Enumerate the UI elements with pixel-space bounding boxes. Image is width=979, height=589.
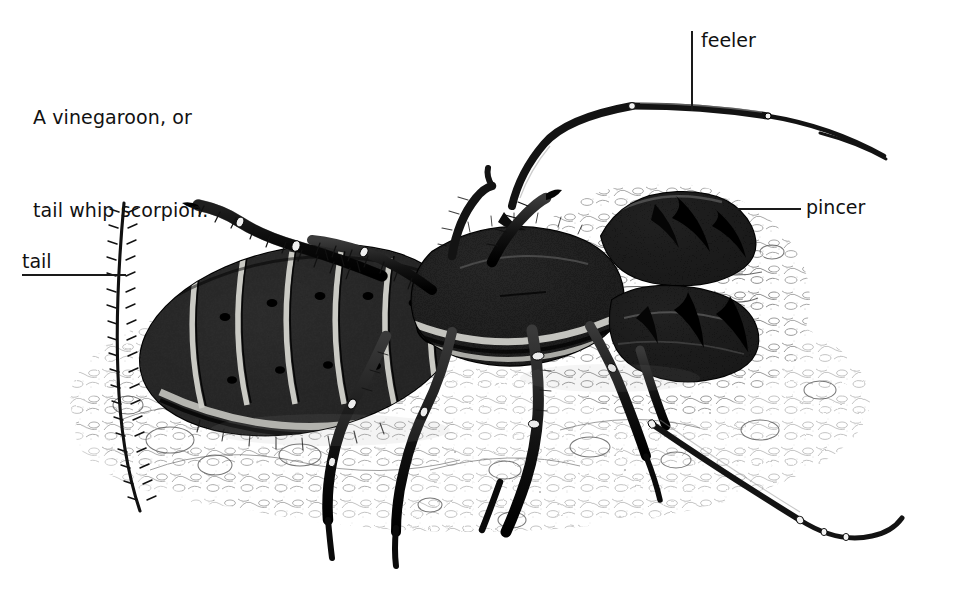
label-feeler: feeler — [701, 29, 756, 51]
illustration-figure: A vinegaroon, or tail whip scorpion. fee… — [0, 0, 979, 589]
feeler-leader-line — [691, 31, 693, 111]
caption-line-2: tail whip scorpion. — [33, 195, 208, 226]
tail-leader-line — [22, 274, 126, 276]
figure-caption: A vinegaroon, or tail whip scorpion. — [33, 40, 208, 288]
caption-line-1: A vinegaroon, or — [33, 102, 208, 133]
pincer-leader-line — [735, 208, 801, 210]
label-pincer: pincer — [806, 196, 865, 218]
label-tail: tail — [22, 250, 52, 272]
